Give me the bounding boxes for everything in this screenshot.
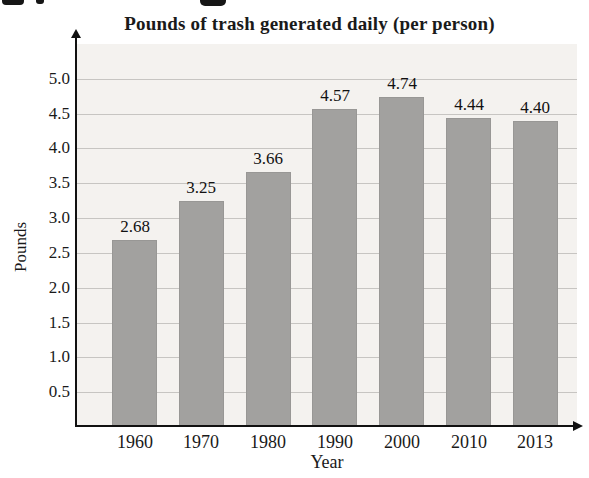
bar-1960: [112, 240, 157, 427]
bar-2010: [446, 118, 491, 427]
bar-value-label-2010: 4.44: [434, 95, 504, 115]
cropped-text-artifact: [200, 0, 226, 6]
bar-value-label-1970: 3.25: [166, 178, 236, 198]
x-tick-label-2010: 2010: [434, 431, 504, 453]
y-tick-label-5.0: 5.0: [26, 69, 70, 89]
bar-1980: [246, 172, 291, 427]
bar-2000: [379, 97, 424, 427]
y-axis-arrow-icon: [71, 29, 81, 38]
x-axis-arrow-icon: [573, 421, 583, 431]
bar-value-label-2000: 4.74: [367, 74, 437, 94]
y-tick-label-1.5: 1.5: [26, 313, 70, 333]
bar-value-label-1980: 3.66: [233, 149, 303, 169]
x-axis-line: [75, 425, 575, 427]
y-tick-label-3.5: 3.5: [26, 173, 70, 193]
x-tick-label-1960: 1960: [100, 431, 170, 453]
bar-chart-figure: Pounds of trash generated daily (per per…: [0, 0, 589, 478]
x-axis-title: Year: [77, 452, 577, 473]
y-tick-label-4.5: 4.5: [26, 104, 70, 124]
y-tick-label-0.5: 0.5: [26, 382, 70, 402]
bar-1990: [312, 109, 357, 427]
gridline-5.0: [77, 79, 577, 80]
y-tick-label-4.0: 4.0: [26, 138, 70, 158]
x-tick-label-1990: 1990: [300, 431, 370, 453]
y-tick-label-1.0: 1.0: [26, 347, 70, 367]
x-tick-label-1970: 1970: [166, 431, 236, 453]
bar-2013: [513, 121, 558, 427]
bar-1970: [179, 201, 224, 427]
x-tick-label-2013: 2013: [500, 431, 570, 453]
plot-area: 2.683.253.664.574.744.444.40: [77, 44, 577, 427]
cropped-text-artifact: [2, 0, 24, 5]
y-axis-title: Pounds: [11, 208, 33, 286]
y-axis-line: [75, 36, 77, 427]
bar-value-label-2013: 4.40: [500, 98, 570, 118]
bar-value-label-1960: 2.68: [100, 217, 170, 237]
x-tick-label-1980: 1980: [233, 431, 303, 453]
chart-title: Pounds of trash generated daily (per per…: [30, 13, 589, 35]
bar-value-label-1990: 4.57: [300, 86, 370, 106]
x-tick-label-2000: 2000: [367, 431, 437, 453]
cropped-text-artifact: [36, 0, 44, 4]
